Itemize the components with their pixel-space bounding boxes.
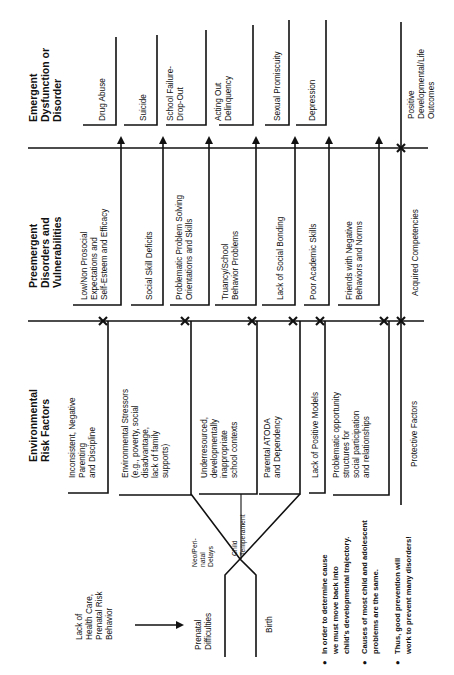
preemergent-item: Friends with NegativeBehaviors and Norms [345, 221, 364, 300]
bullet-icon: ● [360, 660, 369, 665]
environmental-item: Problematic opportunitystructures forsoc… [332, 391, 371, 478]
preemergent-item: Truancy/SchoolBehavior Problems [221, 231, 240, 300]
environmental-item: Inconsistent, NegativeParentingand Disci… [68, 397, 97, 478]
positive-outcomes-label: PositiveDevelopmental/LifeOutcomes [407, 48, 436, 119]
preemergent-item: Low/Non ProsocialExpectations andSelf-Es… [80, 208, 109, 300]
note-text: Thus, good prevention willwork to preven… [393, 536, 413, 655]
preemergent-item: Social Skill Deficits [145, 231, 154, 300]
emergent-item: Acting OutDelinquency [214, 75, 233, 121]
emergent-brackets [83, 20, 401, 148]
text-layer: EmergentDysfunction orDisorderPreemergen… [27, 48, 436, 665]
health-care-cause-label: Lack ofHealth Care,Prenatal RiskBehavior [75, 590, 114, 640]
emergent-item: School Failure-Drop-Out [166, 66, 185, 121]
preemergent-item: Problematic Problem SolvingOrientations … [175, 194, 194, 300]
protective-factors-label: Protective Factors [410, 401, 419, 467]
environmental-item: Parental ATODAand Dependency [263, 415, 282, 478]
bullet-icon: ● [320, 660, 329, 665]
environmental-item: Underresourced,developmentallyinappropri… [200, 417, 239, 478]
prenatal-difficulties-label: PrenatalDifficulties [194, 613, 213, 650]
emergent-item: Drug Abuse [98, 78, 107, 121]
note-text: Causes of most child and adolescentprobl… [360, 520, 380, 654]
preemergent-item: Lack of Social Bonding [276, 216, 285, 300]
emergent-item: Suicide [139, 94, 148, 121]
environmental-item: Lack of Positive Models [311, 392, 320, 478]
preemergent-item: Poor Academic Skills [309, 224, 318, 300]
neo-perinatal-delays-label: Neo/Peri-natalDelays [191, 538, 215, 567]
note-text: In order to determine causewe must move … [320, 537, 351, 655]
emergent-title: EmergentDysfunction orDisorder [27, 48, 63, 122]
environmental-title: EnvironmentalRisk Factors [27, 389, 51, 462]
birth-label: Birth [265, 616, 274, 633]
emergent-item: Depression [308, 79, 317, 121]
preemergent-title: PreemergentDisorders andVulnerabilities [27, 216, 63, 288]
early-development-lines [135, 494, 300, 657]
fishbone-diagram: EmergentDysfunction orDisorderPreemergen… [0, 0, 454, 675]
environmental-item: Environmental Stressors(e.g., poverty, s… [121, 389, 170, 478]
emergent-item: Sexual Promiscuity [273, 50, 282, 121]
bullet-icon: ● [393, 660, 402, 665]
child-temperament-label: ChildTemperament [231, 514, 247, 556]
acquired-competencies-label: Acquired Competencies [411, 209, 420, 296]
